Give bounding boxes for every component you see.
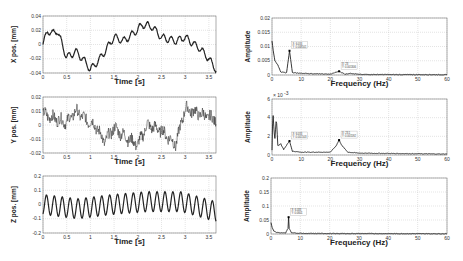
x-tick-label: 0.5 (63, 154, 70, 160)
x-tick-label: 10 (298, 235, 304, 241)
datatip-y: Y: 0.008501 (293, 45, 307, 49)
y-tick-label: 0 (267, 152, 270, 158)
y-tick-label: 0.1 (262, 203, 269, 209)
y-tick-label: 0.2 (262, 175, 269, 181)
x-tick-label: 3.5 (205, 154, 212, 160)
y-tick-label: 0.015 (257, 29, 270, 35)
datatip-y: Y: 0.001503 (293, 135, 307, 139)
y-tick-label: 0.04 (31, 13, 41, 19)
x-tick-label: 50 (415, 76, 421, 82)
x-tick-label: 2.5 (158, 234, 165, 240)
y-tick-label: 0 (38, 41, 41, 47)
x-tick-label: 0 (42, 74, 45, 80)
datatip-y: Y: 0.0601 (292, 211, 304, 215)
subplot-left-bottom: 00.511.522.533.50.20.10-0.1-0.2Time [s]Z… (10, 173, 216, 246)
y-tick-label: 0 (267, 72, 270, 78)
signal-line (43, 101, 216, 151)
y-tick-label: 0.15 (259, 189, 269, 195)
grid (272, 99, 447, 155)
x-tick-label: 10 (298, 76, 304, 82)
spectrum-line (271, 217, 447, 234)
y-scale-note: × 10 (273, 92, 283, 98)
signal-line (43, 22, 216, 72)
y-tick-label: 0.005 (257, 57, 270, 63)
x-tick-label: 3 (184, 154, 187, 160)
x-tick-label: 2.5 (158, 74, 165, 80)
y-axis-label: Amplitude (244, 111, 252, 143)
subplot-left-top: 00.511.522.533.50.040.020-0.02-0.04Time … (10, 13, 216, 86)
grid (271, 178, 447, 234)
datatip-marker (338, 70, 340, 72)
y-axis-label: Amplitude (244, 30, 252, 62)
x-tick-label: 3 (184, 74, 187, 80)
x-tick-label: 1 (89, 234, 92, 240)
y-tick-label: 0 (38, 122, 41, 128)
subplot-left-middle: 00.511.522.533.50.020.010-0.01-0.02Time … (10, 94, 216, 166)
x-tick-label: 3.5 (205, 74, 212, 80)
x-tick-label: 50 (415, 156, 421, 162)
x-axis-label: Time [s] (114, 77, 145, 86)
y-tick-label: -0.1 (32, 215, 41, 221)
signal-line (43, 192, 216, 222)
x-tick-label: 2.5 (158, 154, 165, 160)
x-tick-label: 0 (271, 76, 274, 82)
y-axis-label: Amplitude (243, 190, 251, 222)
x-tick-label: 1 (89, 154, 92, 160)
datatip-y: Y: 0.001306 (342, 65, 356, 69)
y-tick-label: 0.05 (259, 217, 269, 223)
x-tick-label: 1 (89, 74, 92, 80)
grid (43, 97, 216, 153)
x-tick-label: 60 (444, 156, 450, 162)
x-tick-label: 60 (444, 76, 450, 82)
x-tick-label: 0.5 (63, 74, 70, 80)
y-tick-label: 0.2 (34, 173, 41, 179)
y-tick-label: 0.1 (34, 187, 41, 193)
y-tick-label: 0.02 (260, 15, 270, 21)
x-axis-label: Frequency (Hz) (331, 79, 389, 88)
y-tick-label: -0.04 (30, 70, 42, 76)
x-tick-label: 0.5 (63, 234, 70, 240)
figure-canvas: 00.511.522.533.50.040.020-0.02-0.04Time … (0, 0, 463, 261)
y-tick-label: 0.02 (31, 27, 41, 33)
x-axis-label: Time [s] (114, 157, 145, 166)
x-tick-label: 3.5 (205, 234, 212, 240)
y-axis-label: Y pos. [mm] (10, 106, 18, 143)
datatip-marker (288, 216, 290, 218)
y-axis-label: X pos. [mm] (10, 26, 18, 63)
x-tick-label: 0 (270, 235, 273, 241)
datatip-marker (289, 50, 291, 52)
x-axis-label: Time [s] (114, 237, 145, 246)
x-tick-label: 60 (444, 235, 450, 241)
y-tick-label: 6 (267, 96, 270, 102)
x-tick-label: 50 (415, 235, 421, 241)
y-tick-label: 0 (38, 201, 41, 207)
y-tick-label: 4 (267, 114, 270, 120)
subplot-right-top: 01020304050600.020.0150.010.0050X: 6.033… (244, 15, 450, 88)
y-tick-label: 2 (267, 133, 270, 139)
y-tick-label: -0.02 (30, 55, 42, 61)
x-tick-label: 3 (184, 234, 187, 240)
y-tick-label: 0 (266, 231, 269, 237)
subplot-right-middle: 01020304050606420X: 6.033Y: 0.001503X: 2… (244, 90, 450, 168)
y-axis-label: Z pos. [mm] (10, 186, 18, 223)
y-tick-label: 0.01 (31, 108, 41, 114)
y-scale-exponent: -3 (284, 90, 289, 96)
subplot-right-bottom: 01020304050600.20.150.10.050X: 6.033Y: 0… (243, 175, 450, 247)
x-tick-label: 0 (42, 154, 45, 160)
datatip-marker (338, 139, 340, 141)
y-tick-label: -0.01 (30, 136, 42, 142)
x-tick-label: 0 (271, 156, 274, 162)
x-axis-label: Frequency (Hz) (330, 238, 388, 247)
y-tick-label: -0.02 (30, 150, 42, 156)
y-tick-label: -0.2 (32, 230, 41, 236)
y-tick-label: 0.02 (31, 94, 41, 100)
x-axis-label: Frequency (Hz) (331, 159, 389, 168)
y-tick-label: 0.01 (260, 43, 270, 49)
x-tick-label: 10 (298, 156, 304, 162)
datatip-y: Y: 0.001592 (342, 134, 356, 138)
x-tick-label: 0 (42, 234, 45, 240)
datatip-marker (289, 140, 291, 142)
